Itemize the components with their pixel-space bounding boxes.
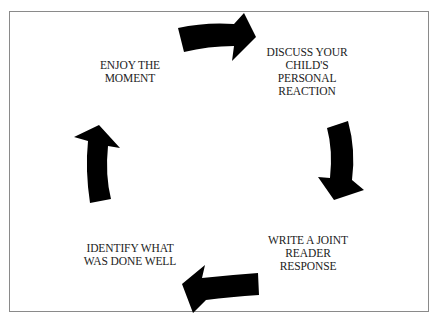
arrow-right-icon	[178, 13, 256, 61]
step-label-line: DISCUSS YOUR	[266, 46, 347, 59]
arrow-down-icon	[318, 121, 364, 200]
step-label-line: REACTION	[266, 85, 347, 98]
step-identify-what-was-done-well: IDENTIFY WHAT WAS DONE WELL	[84, 242, 176, 268]
step-label-line: CHILD'S	[266, 59, 347, 72]
step-label-line: READER	[268, 247, 348, 260]
step-label-line: ENJOY THE	[100, 59, 160, 72]
step-label-line: RESPONSE	[268, 260, 348, 273]
arrow-left-icon	[182, 265, 259, 313]
arrow-up-icon	[74, 125, 120, 203]
step-discuss-personal-reaction: DISCUSS YOUR CHILD'S PERSONAL REACTION	[266, 46, 347, 98]
step-label-line: MOMENT	[100, 72, 160, 85]
cycle-arrows	[0, 0, 437, 321]
step-enjoy-the-moment: ENJOY THE MOMENT	[100, 59, 160, 85]
step-label-line: PERSONAL	[266, 72, 347, 85]
step-write-joint-reader-response: WRITE A JOINT READER RESPONSE	[268, 234, 348, 273]
step-label-line: WAS DONE WELL	[84, 255, 176, 268]
step-label-line: IDENTIFY WHAT	[84, 242, 176, 255]
step-label-line: WRITE A JOINT	[268, 234, 348, 247]
